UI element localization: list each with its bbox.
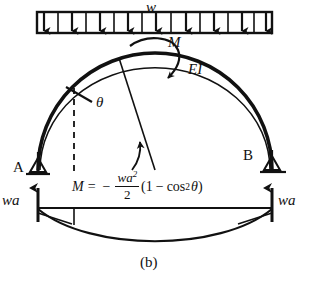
equation-theta: θ [191,179,198,195]
reaction-right-connector [238,213,272,224]
angle-theta-label: θ [96,95,103,110]
theta-chord-line [66,87,92,102]
equation-fraction: wa2 2 [115,170,139,203]
support-a-label: A [13,160,24,175]
figure-drawing-canvas [0,0,313,283]
equation-minus: − [156,179,164,195]
equation-numerator: wa2 [115,170,139,186]
load-intensity-label: w [146,0,156,15]
equation-sign: − [103,179,111,195]
theta-angle-arc [132,142,140,170]
equation-lhs: M [72,179,84,195]
reaction-right-label: wa [278,193,296,208]
load-arrows-group [44,13,266,31]
equation-numerator-text: wa [117,170,132,185]
equation-close-paren: ) [198,179,203,195]
equation-equals: = [88,179,96,195]
radial-line [119,58,155,170]
figure-caption: (b) [140,255,158,270]
moment-diagram-curve [38,209,272,241]
equation-cos: cos [167,179,186,195]
support-b-label: B [243,148,253,163]
moment-label: M [168,35,181,50]
arch-bending-moment-figure: w M EI θ A B wa wa M = − wa2 2 ( 1 − cos… [0,0,313,283]
equation-one: 1 [146,179,153,195]
bending-moment-equation: M = − wa2 2 ( 1 − cos2 θ ) [72,170,203,203]
equation-denominator: 2 [122,187,133,203]
flexural-rigidity-label: EI [188,62,202,77]
reaction-left-label: wa [2,193,20,208]
reaction-left-connector [38,213,72,224]
equation-numerator-exponent: 2 [133,169,137,179]
